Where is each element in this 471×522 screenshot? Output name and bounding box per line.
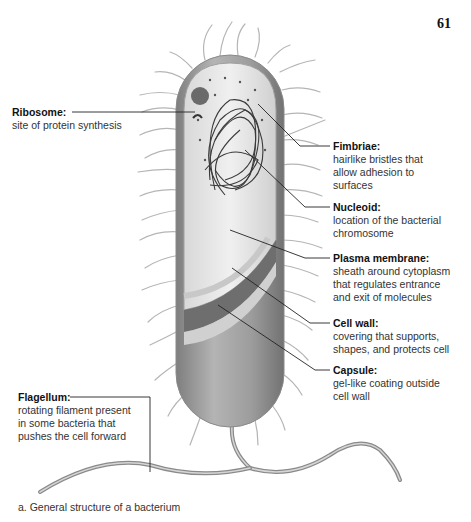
- flagellum-desc: rotating filament present in some bacter…: [18, 404, 131, 443]
- figure-caption: a. General structure of a bacterium: [18, 501, 180, 513]
- nucleoid-title: Nucleoid:: [333, 201, 441, 214]
- inclusion-body: [191, 87, 209, 105]
- ribosome-title: Ribosome:: [12, 106, 122, 119]
- fimbriae-title: Fimbriae:: [333, 140, 423, 153]
- cell-wall-title: Cell wall:: [333, 317, 449, 330]
- label-flagellum: Flagellum: rotating filament present in …: [18, 391, 131, 443]
- label-capsule: Capsule: gel-like coating outside cell w…: [333, 364, 440, 403]
- label-ribosome: Ribosome: site of protein synthesis: [12, 106, 122, 132]
- plasma-membrane-title: Plasma membrane:: [333, 252, 450, 265]
- label-cell-wall: Cell wall: covering that supports, shape…: [333, 317, 449, 356]
- cell-wall-desc: covering that supports, shapes, and prot…: [333, 330, 449, 356]
- ribosome-desc: site of protein synthesis: [12, 119, 122, 132]
- label-nucleoid: Nucleoid: location of the bacterial chro…: [333, 201, 441, 240]
- capsule-title: Capsule:: [333, 364, 440, 377]
- capsule-desc: gel-like coating outside cell wall: [333, 377, 440, 403]
- label-fimbriae: Fimbriae: hairlike bristles that allow a…: [333, 140, 423, 192]
- fimbriae-desc: hairlike bristles that allow adhesion to…: [333, 153, 423, 192]
- nucleoid-desc: location of the bacterial chromosome: [333, 214, 441, 240]
- flagellum-title: Flagellum:: [18, 391, 131, 404]
- plasma-membrane-desc: sheath around cytoplasm that regulates e…: [333, 265, 450, 304]
- label-plasma-membrane: Plasma membrane: sheath around cytoplasm…: [333, 252, 450, 304]
